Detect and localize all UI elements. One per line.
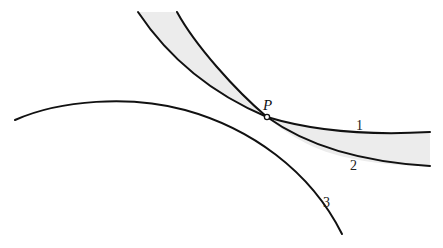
curve-1-label: 1	[356, 118, 363, 133]
curve-3	[15, 101, 342, 234]
point-p-marker	[264, 114, 269, 119]
shaded-region	[138, 12, 430, 166]
curves-diagram: P 1 2 3	[0, 0, 443, 248]
curve-2-label: 2	[350, 158, 357, 173]
curve-3-label: 3	[323, 195, 330, 210]
point-p-label: P	[262, 97, 272, 113]
